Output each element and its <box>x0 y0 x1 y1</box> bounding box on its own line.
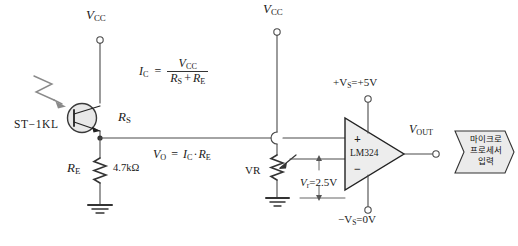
wire-crossover-hop <box>271 132 277 144</box>
dest-line-3: 입력 <box>462 156 510 167</box>
phototransistor-label: ST−1KL <box>14 119 59 131</box>
resistor-re-label: RE <box>67 161 80 176</box>
vr-wiper-arm <box>280 155 296 168</box>
vout-terminal <box>433 151 439 157</box>
circuit-diagram-canvas: VCC VCC ST−1KL IC = VCC RS+RE RS RE 4.7k… <box>0 0 518 246</box>
vout-label: VOUT <box>409 123 433 137</box>
vcc-left-label: VCC <box>86 8 106 23</box>
resistor-re-value: 4.7kΩ <box>113 163 139 174</box>
vcc-right-label: VCC <box>263 2 283 17</box>
vr-reference-voltage: Vr=2.5V <box>300 177 337 190</box>
vs-positive-terminal <box>365 96 371 102</box>
formula-ic: IC = VCC RS+RE <box>139 57 208 87</box>
transistor-emitter-arrow <box>92 127 100 133</box>
vr-label: VR <box>245 165 260 176</box>
ground-symbol-left <box>88 205 112 213</box>
opamp-part-number: LM324 <box>350 149 379 159</box>
dest-line-1: 마이크로 <box>462 134 510 145</box>
formula-vo: VO = IC·RE <box>153 148 211 162</box>
destination-microprocessor-input-label: 마이크로 프로세서 입력 <box>462 134 510 167</box>
resistor-re-symbol <box>94 158 106 183</box>
opamp-inverting-input-sign: − <box>354 163 361 175</box>
opamp-noninverting-input-sign: + <box>354 133 361 145</box>
vcc-right-terminal <box>274 29 280 35</box>
vs-negative-label: −VS=0V <box>338 214 376 227</box>
circuit-schematic-lines <box>0 0 518 246</box>
dest-line-2: 프로세서 <box>462 145 510 156</box>
light-ray-arrows <box>34 76 66 109</box>
resistor-rs-label: RS <box>118 110 131 125</box>
vcc-left-terminal <box>97 37 103 43</box>
ground-symbol-right <box>266 198 289 206</box>
vs-positive-label: +VS=+5V <box>333 77 377 90</box>
